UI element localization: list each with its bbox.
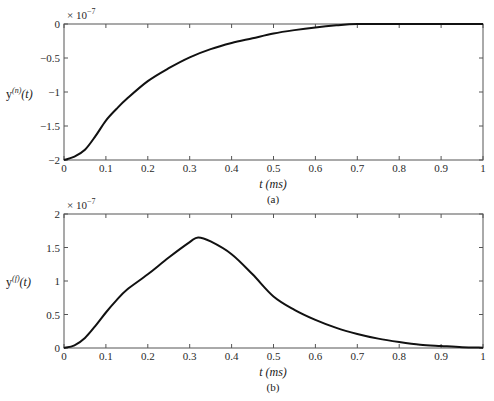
y-ticks-b: 00.511.52 — [46, 208, 483, 354]
x-tick-label: 0.2 — [141, 162, 155, 174]
x-ticks-a: 00.10.20.30.40.50.60.70.80.91 — [61, 24, 486, 174]
caption-b: (b) — [267, 381, 280, 394]
x-axis-label-a: t (ms) — [259, 177, 287, 191]
x-tick-label: 0.9 — [434, 162, 448, 174]
curve-b — [64, 237, 483, 348]
x-tick-label: 0.4 — [225, 162, 239, 174]
y-ticks-a: 0−0.5−1−1.5−2 — [40, 18, 483, 166]
y-tick-label: 0 — [55, 342, 61, 354]
x-tick-label: 0.8 — [392, 350, 406, 362]
caption-a: (a) — [267, 193, 280, 206]
y-axis-label-a: y(n)(t) — [6, 86, 33, 101]
x-tick-label: 0.7 — [350, 350, 364, 362]
y-tick-label: −2 — [48, 154, 60, 166]
x-tick-label: 0.5 — [267, 350, 281, 362]
y-tick-label: 2 — [55, 208, 61, 220]
x-tick-label: 0.6 — [309, 350, 323, 362]
x-ticks-b: 00.10.20.30.40.50.60.70.80.91 — [61, 214, 486, 362]
x-tick-label: 1 — [480, 162, 486, 174]
y-tick-label: −1 — [48, 86, 60, 98]
curve-a — [64, 24, 483, 160]
y-tick-label: 0 — [55, 18, 61, 30]
x-tick-label: 1 — [480, 350, 486, 362]
plot-frame-b — [64, 214, 483, 348]
x-tick-label: 0.8 — [392, 162, 406, 174]
y-tick-label: 1 — [55, 275, 61, 287]
y-axis-label-b: y(f)(t) — [6, 274, 31, 289]
y-tick-label: 1.5 — [46, 242, 60, 254]
chart-a: 00.10.20.30.40.50.60.70.80.91 0−0.5−1−1.… — [6, 7, 486, 206]
x-tick-label: 0.3 — [183, 350, 197, 362]
exponent-label-a: × 10−7 — [67, 7, 95, 21]
x-axis-label-b: t (ms) — [259, 365, 287, 379]
plot-frame-a — [64, 24, 483, 160]
exponent-label-b: × 10−7 — [67, 197, 95, 211]
chart-b: 00.10.20.30.40.50.60.70.80.91 00.511.52 … — [6, 197, 486, 394]
x-tick-label: 0 — [61, 162, 67, 174]
y-tick-label: −0.5 — [40, 52, 60, 64]
x-tick-label: 0 — [61, 350, 67, 362]
x-tick-label: 0.1 — [99, 350, 113, 362]
x-tick-label: 0.7 — [350, 162, 364, 174]
x-tick-label: 0.9 — [434, 350, 448, 362]
x-tick-label: 0.1 — [99, 162, 113, 174]
x-tick-label: 0.6 — [309, 162, 323, 174]
x-tick-label: 0.5 — [267, 162, 281, 174]
x-tick-label: 0.4 — [225, 350, 239, 362]
y-tick-label: 0.5 — [46, 309, 60, 321]
x-tick-label: 0.2 — [141, 350, 155, 362]
figure: 00.10.20.30.40.50.60.70.80.91 0−0.5−1−1.… — [0, 0, 494, 401]
x-tick-label: 0.3 — [183, 162, 197, 174]
y-tick-label: −1.5 — [40, 120, 60, 132]
